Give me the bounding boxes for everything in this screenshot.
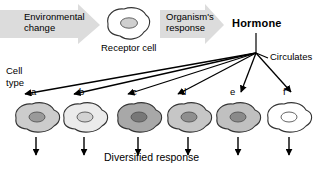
cell-letter-f: f [283,87,286,98]
hormone-distribution-arrows [25,53,291,94]
hormone-arrow-a [25,53,256,94]
diversified-response-label: Diversified response [104,152,199,164]
environmental-change-label: Environmental change [24,12,85,33]
hormone-arrow-e [241,53,256,92]
hormone-arrow-d [178,53,256,94]
cell-f-shape [268,103,312,132]
cell-letter-a: a [31,87,36,98]
receptor-cell-shape [108,8,150,39]
cell-type-label-line2: type [6,78,24,89]
cell-d-shape [168,103,212,132]
cell-a-shape [16,103,60,132]
cell-letter-b: b [79,87,84,98]
cell-b-shape [64,103,108,132]
cell-letter-d: d [181,87,186,98]
receptor-cell-label: Receptor cell [101,43,156,54]
hormone-label: Hormone [232,17,282,29]
hormone-diversified-response-diagram: Environmental change Organism's response… [0,0,329,174]
cell-e-shape [217,103,261,132]
cell-type-label-line1: Cell [6,66,22,77]
organisms-response-label: Organism's response [166,12,214,33]
cell-c-shape [118,103,162,132]
hormone-arrow-c [128,53,256,94]
cell-letter-e: e [230,87,235,98]
circulates-label: Circulates [270,52,312,63]
cell-letter-c: c [132,87,137,98]
hormone-arrow-b [74,53,256,94]
